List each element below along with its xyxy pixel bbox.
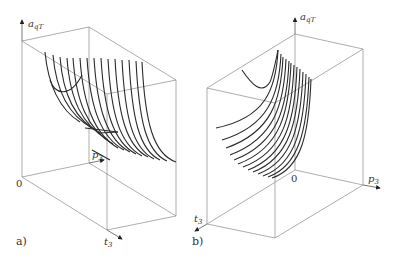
label-t3-b: t3 bbox=[194, 213, 203, 226]
origin-label-b: 0 bbox=[291, 173, 297, 184]
figure-canvas: aqT p3 t3 0 a) bbox=[0, 0, 394, 267]
label-aqT-b: aqT bbox=[300, 11, 316, 24]
label-p3-a: p3 bbox=[92, 149, 103, 162]
curve-family-b bbox=[216, 50, 311, 178]
label-p3-b: p3 bbox=[368, 173, 379, 186]
label-t3-a: t3 bbox=[104, 236, 113, 249]
axis-t3-a bbox=[107, 230, 122, 239]
panel-label-a: a) bbox=[16, 235, 27, 248]
panel-label-b: b) bbox=[192, 235, 203, 248]
curve-family-a bbox=[45, 52, 176, 162]
origin-label-a: 0 bbox=[16, 178, 22, 189]
label-aqT-a: aqT bbox=[28, 18, 44, 31]
panel-b: aqT p3 t3 0 b) bbox=[192, 11, 380, 248]
panel-a: aqT p3 t3 0 a) bbox=[16, 18, 176, 249]
